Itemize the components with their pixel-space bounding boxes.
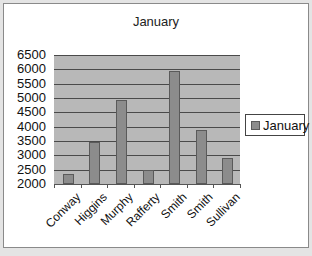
x-tick — [187, 184, 188, 188]
x-tick — [160, 184, 161, 188]
bar-higgins — [89, 142, 100, 184]
x-tick — [107, 184, 108, 188]
x-tick — [54, 184, 55, 188]
gridline — [54, 84, 240, 85]
y-tick-label: 5000 — [17, 91, 46, 105]
chart-title: January — [4, 14, 308, 29]
gridline — [54, 98, 240, 99]
y-tick-label: 2500 — [17, 163, 46, 177]
bar-sullivan — [222, 158, 233, 184]
y-tick-label: 6500 — [17, 48, 46, 62]
x-tick — [81, 184, 82, 188]
gridline — [54, 141, 240, 142]
y-tick-label: 3000 — [17, 148, 46, 162]
legend: January — [245, 114, 305, 136]
y-tick-label: 4500 — [17, 105, 46, 119]
bar-murphy — [116, 100, 127, 184]
plot-area — [54, 55, 240, 184]
bar-smith — [196, 130, 207, 184]
gridline — [54, 127, 240, 128]
x-tick-label: Smith — [158, 190, 190, 222]
bar-conway — [63, 174, 74, 184]
bar-rafferty — [143, 170, 154, 184]
y-tick-label: 4000 — [17, 120, 46, 134]
legend-swatch — [251, 121, 260, 130]
y-tick-label: 3500 — [17, 134, 46, 148]
y-tick-label: 2000 — [17, 177, 46, 191]
bar-smith — [169, 71, 180, 184]
gridline — [54, 69, 240, 70]
x-tick — [213, 184, 214, 188]
y-tick-label: 5500 — [17, 77, 46, 91]
gridline — [54, 55, 240, 56]
y-tick-label: 6000 — [17, 62, 46, 76]
gridline — [54, 155, 240, 156]
x-tick — [134, 184, 135, 188]
x-tick — [240, 184, 241, 188]
gridline — [54, 112, 240, 113]
legend-label: January — [263, 118, 309, 133]
chart-frame: January January 650060005500500045004000… — [3, 3, 309, 248]
